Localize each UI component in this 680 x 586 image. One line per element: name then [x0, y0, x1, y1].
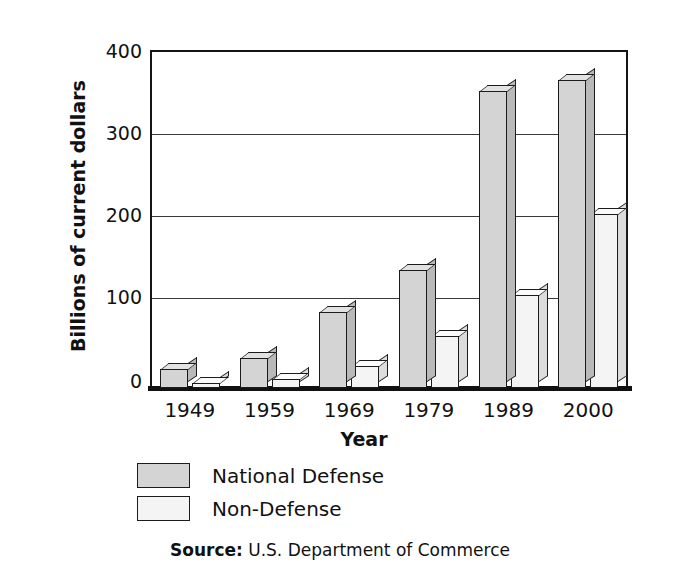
source-prefix: Source: [170, 540, 243, 560]
y-tick-0: 0 [78, 370, 142, 392]
bar-side-face [539, 282, 548, 382]
bar-front-face [319, 312, 347, 388]
legend-label-national-defense: National Defense [212, 464, 384, 488]
bar-side-face [427, 258, 436, 382]
bar-front-face [160, 369, 188, 388]
bar-1989-national-defense [479, 91, 507, 388]
chart-figure: Billions of current dollars 400 300 200 … [0, 0, 680, 586]
bar-side-face [379, 354, 388, 382]
x-tick-1949: 1949 [150, 398, 230, 422]
y-tick-100: 100 [78, 286, 142, 308]
y-tick-200: 200 [78, 204, 142, 226]
bar-front-face [399, 270, 427, 388]
bar-1949-non-defense [192, 383, 220, 388]
bar-front-face [558, 80, 586, 388]
x-tick-1989: 1989 [469, 398, 549, 422]
legend-label-non-defense: Non-Defense [212, 497, 342, 521]
x-axis-title: Year [24, 428, 680, 450]
bar-front-face [240, 358, 268, 388]
plot-area [150, 50, 628, 390]
chart-legend: National Defense Non-Defense [137, 459, 537, 525]
bar-front-face [192, 383, 220, 388]
x-tick-2000: 2000 [548, 398, 628, 422]
bar-1959-non-defense [272, 379, 300, 388]
bar-1969-national-defense [319, 312, 347, 388]
bar-front-face [479, 91, 507, 388]
bar-1959-national-defense [240, 358, 268, 388]
legend-swatch-national-defense [137, 463, 190, 488]
bar-side-face [507, 79, 516, 382]
bar-side-face [586, 68, 595, 382]
y-tick-400: 400 [78, 40, 142, 62]
x-tick-1969: 1969 [309, 398, 389, 422]
legend-item-national-defense: National Defense [137, 459, 537, 492]
bar-side-face [188, 357, 197, 382]
bar-1979-national-defense [399, 270, 427, 388]
bar-front-face [272, 379, 300, 388]
legend-swatch-non-defense [137, 496, 190, 521]
bar-side-face [618, 202, 627, 382]
x-tick-1979: 1979 [389, 398, 469, 422]
bars-layer [152, 52, 626, 388]
source-note: Source: U.S. Department of Commerce [0, 540, 680, 560]
bar-2000-national-defense [558, 80, 586, 388]
bar-1949-national-defense [160, 369, 188, 388]
legend-item-non-defense: Non-Defense [137, 492, 537, 525]
y-axis-tick-labels: 400 300 200 100 0 [78, 0, 142, 586]
y-tick-300: 300 [78, 122, 142, 144]
source-text: U.S. Department of Commerce [243, 540, 510, 560]
bar-side-face [347, 300, 356, 382]
x-tick-1959: 1959 [230, 398, 310, 422]
